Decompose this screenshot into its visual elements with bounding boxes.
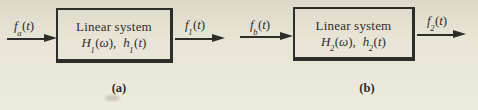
input-signal-label: fb(t) (250, 18, 270, 31)
output-arrow-line (175, 38, 213, 40)
output-signal-label: f1(t) (185, 18, 205, 31)
arrow-right-icon (212, 34, 225, 42)
system-box: Linear system H2(ω),h2(t) (293, 7, 415, 61)
input-arrow-line (7, 38, 45, 40)
impulse-response-label: h1(t) (123, 35, 146, 50)
system-box-functions: H2(ω),h2(t) (321, 35, 386, 48)
impulse-response-label: h2(t) (363, 34, 386, 49)
math-close: ) (201, 17, 205, 32)
math-close: ), (348, 34, 356, 49)
system-box-functions: H1(ω),h1(t) (82, 36, 147, 49)
math-close: ) (443, 13, 447, 28)
output-signal-label: f2(t) (427, 14, 447, 27)
math-sub: 1 (129, 45, 133, 55)
scan-smudge (105, 95, 120, 101)
arrow-right-icon (453, 30, 466, 38)
math-sub: 2 (369, 43, 373, 53)
arrow-right-icon (280, 32, 293, 40)
math-sub: 2 (430, 23, 434, 33)
system-box: Linear system H1(ω),h1(t) (56, 8, 173, 63)
block-diagram-figure: fa(t) Linear system H1(ω),h1(t) f1(t) (a… (0, 0, 478, 110)
math-close: ) (30, 18, 34, 33)
input-signal-label: fa(t) (14, 19, 34, 32)
system-box-title: Linear system (316, 19, 392, 32)
math-sub: b (253, 27, 257, 37)
math-close: ) (382, 34, 386, 49)
math-arg: ω (100, 35, 109, 50)
math-sub: 1 (90, 45, 94, 55)
math-arg: ω (339, 34, 348, 49)
math-close: ) (142, 35, 146, 50)
caption-b: (b) (352, 82, 382, 95)
math-close: ) (266, 17, 270, 32)
transfer-function-label: H2(ω), (321, 34, 356, 49)
transfer-function-label: H1(ω), (82, 35, 117, 50)
system-box-title: Linear system (76, 20, 152, 33)
math-close: ), (109, 35, 117, 50)
math-sub: 2 (330, 43, 334, 53)
input-arrow-line (240, 36, 281, 38)
math-sub: a (17, 28, 21, 38)
output-arrow-line (417, 34, 454, 36)
caption-a: (a) (104, 82, 134, 95)
math-sub: 1 (188, 27, 192, 37)
